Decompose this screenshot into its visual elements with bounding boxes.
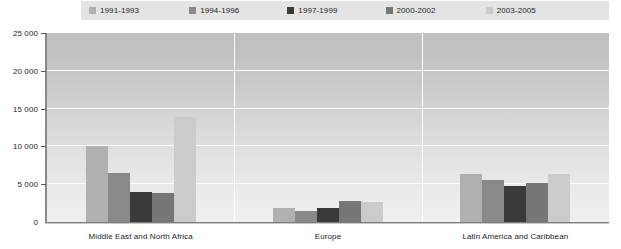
legend-swatch-icon bbox=[287, 7, 294, 14]
gridline bbox=[47, 108, 609, 109]
x-axis-line-shadow bbox=[45, 223, 609, 224]
bar bbox=[295, 211, 317, 222]
y-axis-tick-label: 25 000 bbox=[13, 29, 38, 38]
legend-item-label: 1997-1999 bbox=[298, 6, 337, 15]
y-axis-tick-label: 20 000 bbox=[13, 66, 38, 75]
y-axis-tick-mark bbox=[41, 33, 46, 34]
y-axis-tick-mark bbox=[41, 109, 46, 110]
legend-item[interactable]: 1991-1993 bbox=[89, 1, 139, 20]
legend-item-label: 1991-1993 bbox=[100, 6, 139, 15]
bar bbox=[482, 180, 504, 222]
bar bbox=[460, 174, 482, 222]
gridline bbox=[47, 183, 609, 184]
bar bbox=[548, 174, 570, 222]
legend-item-label: 2003-2005 bbox=[497, 6, 536, 15]
legend-item-label: 1994-1996 bbox=[200, 6, 239, 15]
y-axis-tick-label: 0 bbox=[33, 218, 38, 227]
plot-area bbox=[47, 33, 609, 222]
legend-swatch-icon bbox=[386, 7, 393, 14]
legend-item-label: 2000-2002 bbox=[397, 6, 436, 15]
y-axis-line bbox=[45, 33, 47, 223]
bar bbox=[152, 193, 174, 222]
legend-swatch-icon bbox=[486, 7, 493, 14]
legend-swatch-icon bbox=[189, 7, 196, 14]
x-axis-category-label: Europe bbox=[315, 232, 341, 241]
legend-item[interactable]: 1994-1996 bbox=[189, 1, 239, 20]
legend-item[interactable]: 1997-1999 bbox=[287, 1, 337, 20]
bar bbox=[174, 117, 196, 222]
legend-swatch-icon bbox=[89, 7, 96, 14]
y-axis-tick-label: 5 000 bbox=[17, 180, 38, 189]
bar bbox=[526, 183, 548, 222]
bar bbox=[361, 202, 383, 222]
group-separator bbox=[234, 33, 235, 222]
bar bbox=[317, 208, 339, 222]
x-axis-category-label: Middle East and North Africa bbox=[89, 232, 193, 241]
legend-item[interactable]: 2000-2002 bbox=[386, 1, 436, 20]
bar bbox=[339, 201, 361, 222]
bar-chart: 1991-1993 1994-1996 1997-1999 2000-2002 … bbox=[0, 0, 621, 249]
chart-legend: 1991-1993 1994-1996 1997-1999 2000-2002 … bbox=[81, 1, 609, 20]
bar bbox=[130, 192, 152, 222]
y-axis-tick-mark bbox=[41, 71, 46, 72]
y-axis-tick-label: 15 000 bbox=[13, 104, 38, 113]
bar bbox=[108, 173, 130, 222]
y-axis-tick-label: 10 000 bbox=[13, 142, 38, 151]
legend-item[interactable]: 2003-2005 bbox=[486, 1, 536, 20]
gridline bbox=[47, 70, 609, 71]
bar bbox=[273, 208, 295, 222]
bar bbox=[86, 146, 108, 222]
bar bbox=[504, 186, 526, 222]
group-separator bbox=[422, 33, 423, 222]
y-axis-tick-mark bbox=[41, 184, 46, 185]
x-axis-category-label: Latin America and Caribbean bbox=[462, 232, 568, 241]
gridline bbox=[47, 145, 609, 146]
y-axis-tick-mark bbox=[41, 146, 46, 147]
